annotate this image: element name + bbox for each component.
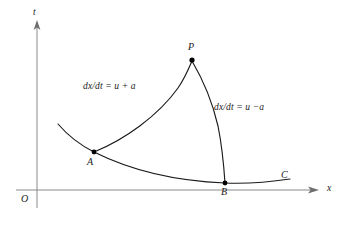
characteristic-curve-pb: [192, 61, 225, 183]
characteristics-diagram: t x O P A B C dx/dt = u + a dx/dt = u −a: [0, 0, 343, 232]
characteristic-curve-ap: [94, 61, 192, 152]
t-axis-label: t: [33, 8, 36, 18]
point-marker-a: [92, 150, 97, 155]
origin-label: O: [21, 194, 28, 204]
point-label-c: C: [281, 170, 288, 180]
equation-label-left: dx/dt = u + a: [83, 82, 136, 92]
point-label-a: A: [87, 157, 93, 167]
point-marker-b: [223, 181, 228, 186]
x-axis-label: x: [327, 184, 331, 194]
point-label-b: B: [221, 187, 227, 197]
point-marker-p: [189, 57, 194, 62]
point-label-p: P: [188, 42, 194, 52]
diagram-canvas: [0, 0, 343, 232]
equation-label-right: dx/dt = u −a: [214, 103, 264, 113]
